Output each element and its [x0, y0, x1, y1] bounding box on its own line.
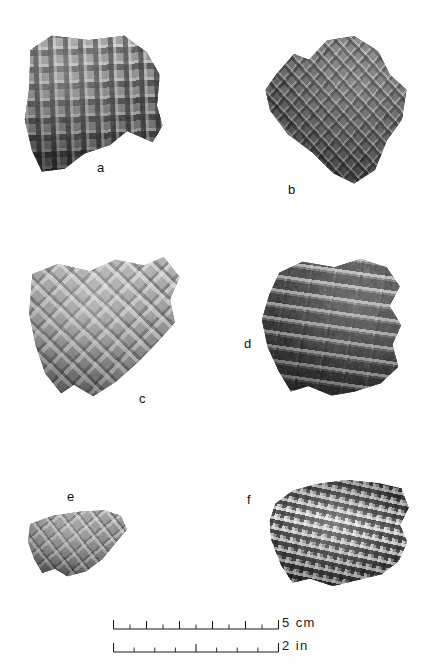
- specimen-label-a: a: [97, 161, 104, 174]
- sherd-photo-f: [267, 480, 410, 587]
- specimen-c[interactable]: c: [26, 257, 186, 399]
- specimen-label-f: f: [247, 493, 251, 506]
- scale-bar-in-graphic: [113, 635, 283, 657]
- specimen-b[interactable]: b: [261, 36, 411, 185]
- specimen-a[interactable]: a: [22, 33, 164, 173]
- specimen-label-d: d: [244, 337, 251, 350]
- specimen-label-e: e: [67, 490, 74, 503]
- scale-bar-cm-graphic: [113, 612, 283, 634]
- scale-bar-in: [113, 635, 283, 657]
- scale-bar-cm: [113, 612, 283, 634]
- specimen-label-c: c: [139, 392, 146, 405]
- sherd-photo-e: [26, 509, 129, 577]
- sherd-photo-b: [261, 36, 411, 185]
- scale-bars: 5 cm 2 in: [0, 612, 435, 666]
- sherd-photo-c: [26, 257, 186, 399]
- figure-plate: a b c: [0, 0, 435, 666]
- scale-bar-in-label: 2 in: [282, 638, 309, 653]
- sherd-photo-d: [259, 259, 404, 397]
- scale-bar-cm-label: 5 cm: [282, 615, 316, 630]
- specimen-f[interactable]: f: [267, 480, 410, 587]
- specimen-label-b: b: [288, 183, 295, 196]
- specimen-d[interactable]: d: [259, 259, 404, 397]
- sherd-photo-a: [22, 33, 164, 173]
- specimen-e[interactable]: e: [26, 509, 129, 577]
